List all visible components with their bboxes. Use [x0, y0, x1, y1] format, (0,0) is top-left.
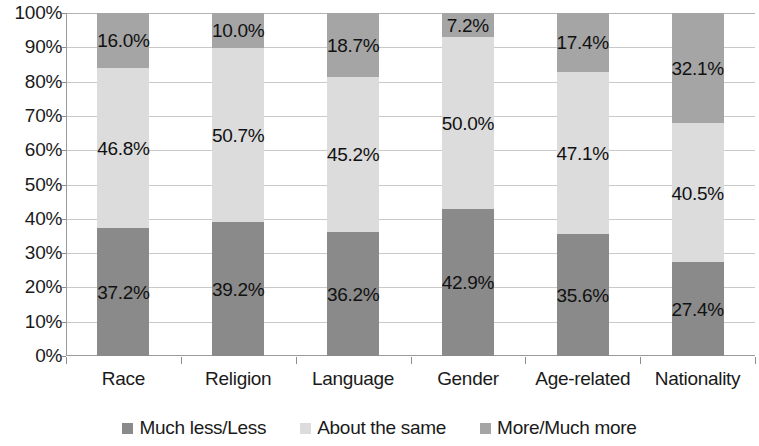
y-axis-tick-label: 10% [0, 312, 62, 331]
y-axis-tick-label: 70% [0, 106, 62, 125]
bar-value-label: 27.4% [671, 300, 723, 319]
y-axis-tick-label: 100% [0, 3, 62, 22]
bar-group[interactable]: 36.2%45.2%18.7% [296, 13, 411, 356]
legend-swatch-icon [480, 423, 491, 434]
legend-item[interactable]: About the same [300, 418, 446, 438]
x-axis-tick-mark [296, 357, 297, 364]
x-axis-tick-mark [411, 357, 412, 364]
legend-label: About the same [317, 418, 446, 438]
x-axis-category-label: Nationality [640, 368, 755, 390]
bar-value-label: 50.7% [212, 126, 264, 145]
x-axis-category-label: Gender [411, 368, 526, 390]
bar-group[interactable]: 35.6%47.1%17.4% [525, 13, 640, 356]
bar-group[interactable]: 27.4%40.5%32.1% [640, 13, 755, 356]
x-axis-tick-mark [640, 357, 641, 364]
stacked-bar[interactable]: 37.2%46.8%16.0% [97, 13, 149, 356]
stacked-bar[interactable]: 39.2%50.7%10.0% [212, 13, 264, 356]
bar-value-label: 46.8% [97, 139, 149, 158]
bar-value-label: 36.2% [327, 285, 379, 304]
bar-value-label: 45.2% [327, 145, 379, 164]
y-axis-tick-label: 30% [0, 243, 62, 262]
stacked-bar-chart: 100%90%80%70%60%50%40%30%20%10%0% 37.2%4… [0, 0, 759, 446]
x-axis-category-label: Language [296, 368, 411, 390]
legend-item[interactable]: More/Much more [480, 418, 636, 438]
stacked-bar[interactable]: 36.2%45.2%18.7% [327, 13, 379, 356]
y-axis: 100%90%80%70%60%50%40%30%20%10%0% [0, 13, 62, 356]
bar-group[interactable]: 42.9%50.0%7.2% [411, 13, 526, 356]
bar-value-label: 35.6% [557, 286, 609, 305]
bar-value-label: 47.1% [557, 144, 609, 163]
stacked-bar[interactable]: 27.4%40.5%32.1% [672, 13, 724, 356]
bar-value-label: 37.2% [97, 283, 149, 302]
x-axis-tick-mark [66, 357, 67, 364]
bars-layer: 37.2%46.8%16.0%39.2%50.7%10.0%36.2%45.2%… [66, 13, 755, 356]
legend-label: Much less/Less [139, 418, 266, 438]
y-axis-tick-label: 20% [0, 277, 62, 296]
x-axis-tick-mark [755, 357, 756, 364]
y-axis-tick-label: 50% [0, 175, 62, 194]
bar-value-label: 39.2% [212, 280, 264, 299]
legend-label: More/Much more [497, 418, 636, 438]
bar-value-label: 7.2% [447, 16, 489, 35]
bar-group[interactable]: 39.2%50.7%10.0% [181, 13, 296, 356]
x-axis-tick-mark [181, 357, 182, 364]
bar-value-label: 16.0% [97, 31, 149, 50]
y-axis-tick-label: 60% [0, 140, 62, 159]
y-axis-tick-label: 90% [0, 37, 62, 56]
x-axis-category-label: Religion [181, 368, 296, 390]
legend-swatch-icon [122, 423, 133, 434]
x-axis: RaceReligionLanguageGenderAge-relatedNat… [66, 357, 755, 393]
x-axis-tick-mark [525, 357, 526, 364]
bar-value-label: 42.9% [442, 273, 494, 292]
x-axis-category-label: Age-related [525, 368, 640, 390]
legend-swatch-icon [300, 423, 311, 434]
y-axis-tick-label: 0% [0, 346, 62, 365]
y-axis-tick-label: 80% [0, 72, 62, 91]
chart-legend: Much less/LessAbout the sameMore/Much mo… [0, 414, 759, 442]
stacked-bar[interactable]: 35.6%47.1%17.4% [557, 13, 609, 356]
bar-value-label: 17.4% [557, 33, 609, 52]
x-axis-category-label: Race [66, 368, 181, 390]
bar-value-label: 18.7% [327, 36, 379, 55]
bar-value-label: 32.1% [671, 59, 723, 78]
bar-value-label: 40.5% [671, 184, 723, 203]
y-axis-tick-label: 40% [0, 209, 62, 228]
bar-value-label: 10.0% [212, 21, 264, 40]
bar-group[interactable]: 37.2%46.8%16.0% [66, 13, 181, 356]
legend-item[interactable]: Much less/Less [122, 418, 266, 438]
bar-value-label: 50.0% [442, 114, 494, 133]
stacked-bar[interactable]: 42.9%50.0%7.2% [442, 13, 494, 356]
